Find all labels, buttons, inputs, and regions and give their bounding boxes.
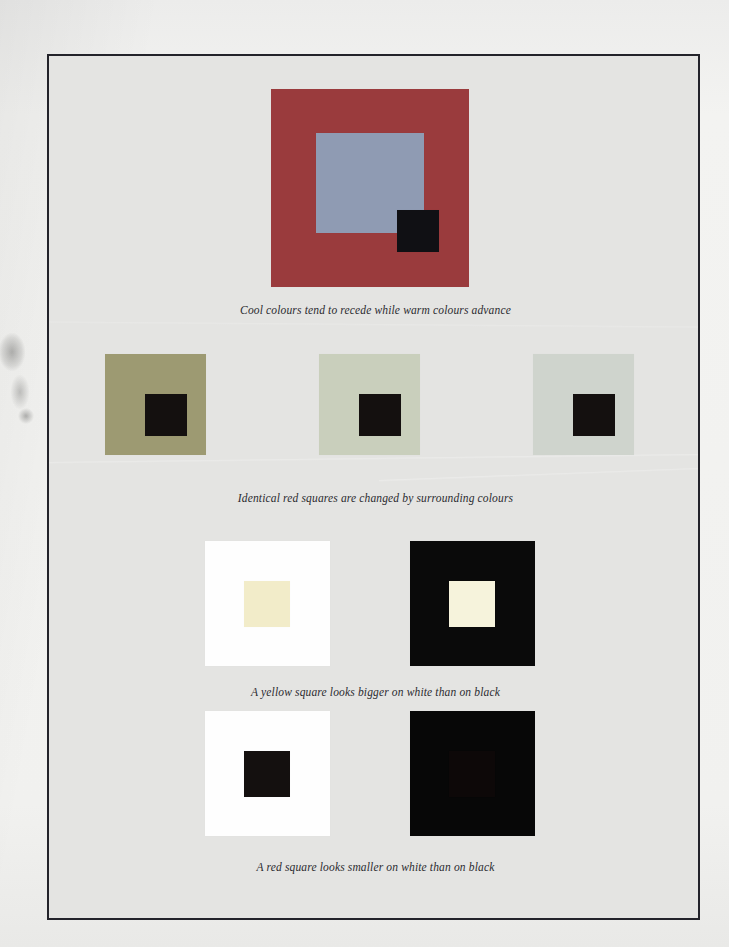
illustration-plate: Cool colours tend to recede while warm c… (47, 54, 700, 920)
figure-nested-squares: Cool colours tend to recede while warm c… (49, 56, 702, 338)
panel-yellow-on-white (205, 541, 330, 666)
figure-yellow-square-size: A yellow square looks bigger on white th… (49, 541, 702, 711)
yellow-square-core (449, 581, 495, 627)
figure-caption-red-square-size: A red square looks smaller on white than… (49, 861, 702, 873)
figure-caption-yellow-square-size: A yellow square looks bigger on white th… (49, 686, 702, 698)
panel-red-on-black (410, 711, 535, 836)
panel-surround-pale-blue (533, 354, 634, 455)
figure-red-squares-on-surrounds: Identical red squares are changed by sur… (49, 354, 702, 514)
red-square-core (573, 394, 615, 436)
nested-middle-square (316, 133, 424, 233)
yellow-square-core (244, 581, 290, 627)
panel-surround-olive (105, 354, 206, 455)
red-square-core (449, 751, 495, 797)
nested-outer-square (271, 89, 469, 287)
red-square-core (359, 394, 401, 436)
panel-yellow-on-black (410, 541, 535, 666)
red-square-core (244, 751, 290, 797)
figure-red-square-size: A red square looks smaller on white than… (49, 711, 702, 886)
figure-caption-red-squares-on-surrounds: Identical red squares are changed by sur… (49, 492, 702, 504)
panel-surround-pale-green (319, 354, 420, 455)
figure-caption-nested-squares: Cool colours tend to recede while warm c… (49, 304, 702, 316)
scanned-page: Cool colours tend to recede while warm c… (0, 0, 729, 947)
nested-inner-square (397, 210, 439, 252)
panel-red-on-white (205, 711, 330, 836)
red-square-core (145, 394, 187, 436)
